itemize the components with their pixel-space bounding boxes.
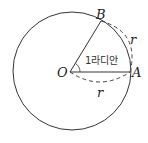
circle-figure: [0, 0, 148, 143]
radius-label: r: [97, 86, 103, 99]
point-A-label: A: [132, 66, 141, 79]
point-O-label: O: [57, 66, 68, 79]
angle-label: 1라디안: [85, 56, 118, 66]
arc-length-label: r: [130, 33, 136, 46]
point-B-label: B: [96, 8, 106, 21]
circle: [13, 12, 131, 130]
radian-diagram: O A B r r 1라디안: [0, 0, 148, 143]
angle-arc: [76, 64, 81, 73]
dashed-radius-arc: [70, 72, 130, 82]
